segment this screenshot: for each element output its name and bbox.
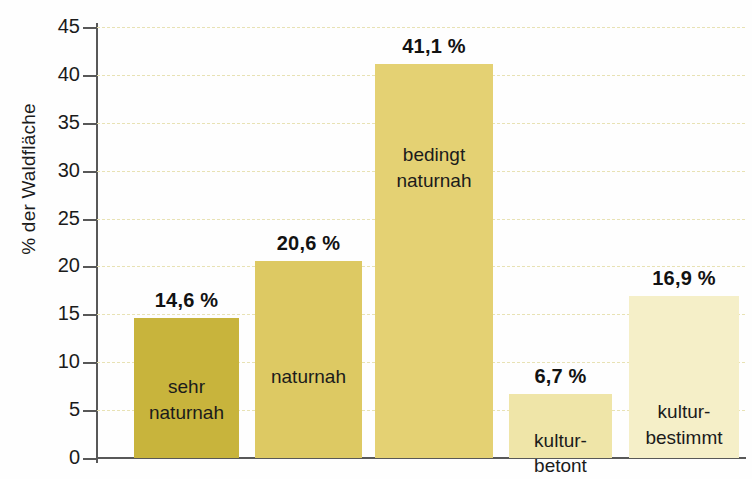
bar-caption-line: betont (509, 453, 612, 479)
y-tick-label: 35 (6, 111, 80, 134)
bar-caption-line: bestimmt (629, 425, 739, 451)
y-tick-label: 0 (6, 446, 80, 469)
bar-value-label: 14,6 % (102, 289, 272, 312)
y-tick-mark (83, 75, 97, 77)
y-tick-mark (83, 123, 97, 125)
y-tick-mark (83, 314, 97, 316)
y-tick-mark (83, 458, 97, 460)
bar-value-label: 16,9 % (599, 267, 752, 290)
bar-caption: bedingtnaturnah (375, 142, 493, 193)
bar-caption-line: naturnah (375, 168, 493, 194)
bar-caption-line: naturnah (255, 364, 362, 390)
y-tick-mark (83, 362, 97, 364)
bar[interactable]: naturnah (255, 261, 362, 458)
y-tick-label: 30 (6, 159, 80, 182)
y-tick-mark (83, 266, 97, 268)
bar[interactable]: kultur-betont (509, 394, 612, 458)
bar[interactable]: kultur-bestimmt (629, 296, 739, 458)
y-tick-label: 45 (6, 15, 80, 38)
y-tick-label: 10 (6, 350, 80, 373)
y-tick-label: 15 (6, 302, 80, 325)
gridline (97, 27, 745, 28)
bar-caption-line: sehr (134, 374, 239, 400)
y-tick-label: 5 (6, 398, 80, 421)
bar-caption: naturnah (255, 364, 362, 390)
bar-value-label: 6,7 % (476, 365, 646, 388)
bar-value-label: 20,6 % (224, 232, 394, 255)
bar-caption: kultur-bestimmt (629, 399, 739, 450)
y-tick-label: 40 (6, 63, 80, 86)
bar-caption: kultur-betont (509, 428, 612, 479)
bar-caption-line: naturnah (134, 400, 239, 426)
bar-caption-line: bedingt (375, 142, 493, 168)
bar-caption: sehrnaturnah (134, 374, 239, 425)
bar-chart: % der Waldfläche 051015202530354045 sehr… (0, 0, 752, 479)
bar-caption-line: kultur- (509, 428, 612, 454)
y-tick-mark (83, 171, 97, 173)
plot-area: sehrnaturnah14,6 %naturnah20,6 %bedingtn… (97, 27, 745, 458)
y-tick-mark (83, 219, 97, 221)
y-tick-mark (83, 27, 97, 29)
bar-caption-line: kultur- (629, 399, 739, 425)
bar[interactable]: sehrnaturnah (134, 318, 239, 458)
y-tick-label: 25 (6, 207, 80, 230)
y-tick-mark (83, 410, 97, 412)
bar-value-label: 41,1 % (349, 35, 519, 58)
bar[interactable]: bedingtnaturnah (375, 64, 493, 458)
y-tick-label: 20 (6, 254, 80, 277)
